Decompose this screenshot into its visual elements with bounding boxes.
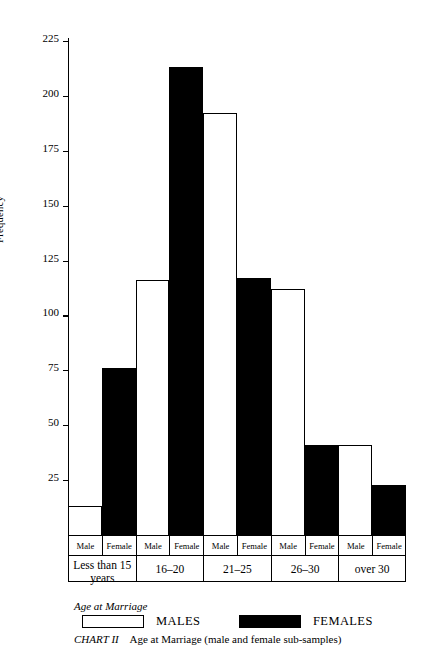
bar-female-1 <box>169 67 203 535</box>
y-tick-mark <box>63 315 69 316</box>
y-tick-label: 75 <box>48 362 59 373</box>
y-axis-title: Frequency <box>0 196 5 243</box>
legend-label-males: MALES <box>156 614 200 629</box>
y-tick-label: 225 <box>43 33 60 44</box>
x-axis-title: Age at Marriage <box>74 600 147 612</box>
group-label-4: over 30 <box>338 556 406 582</box>
legend-swatch-males <box>82 615 144 628</box>
group-label-line1: Less than 15 <box>69 559 136 572</box>
chart-caption: CHART II Age at Marriage (male and femal… <box>74 633 341 645</box>
sub-label-male-4: Male <box>338 536 372 556</box>
y-tick-mark <box>63 96 69 97</box>
y-tick-label: 200 <box>43 88 60 99</box>
sub-label-male-3: Male <box>271 536 305 556</box>
legend-swatch-females <box>239 615 301 628</box>
bar-male-1 <box>136 280 170 535</box>
chart-caption-number: CHART II <box>74 633 119 645</box>
chart-caption-text: Age at Marriage (male and female sub-sam… <box>129 633 341 645</box>
sub-label-female-3: Female <box>305 536 339 556</box>
bar-female-2 <box>237 278 271 535</box>
y-tick-label: 125 <box>43 253 60 264</box>
group-label-2: 21–25 <box>203 556 271 582</box>
y-tick-mark <box>63 425 69 426</box>
sub-label-male-1: Male <box>136 536 170 556</box>
y-tick-label: 150 <box>43 198 60 209</box>
chart-page: 255075100125150175200225 Frequency MaleF… <box>0 0 433 646</box>
bar-male-3 <box>271 289 305 535</box>
y-tick-label: 25 <box>48 472 59 483</box>
group-label-3: 26–30 <box>271 556 339 582</box>
y-tick-mark <box>63 480 69 481</box>
sub-label-female-2: Female <box>237 536 271 556</box>
y-tick-mark <box>63 370 69 371</box>
sub-label-female-4: Female <box>372 536 406 556</box>
sub-label-female-0: Female <box>102 536 136 556</box>
y-tick-label: 100 <box>43 307 60 318</box>
group-label-0: Less than 15years <box>68 556 136 582</box>
chart-legend: MALES FEMALES <box>0 614 433 632</box>
group-label-line2: years <box>69 572 136 585</box>
y-tick-mark <box>63 261 69 262</box>
y-axis-line <box>68 38 69 536</box>
y-tick-mark <box>63 41 69 42</box>
bar-female-3 <box>305 445 339 535</box>
y-tick-label: 50 <box>48 417 59 428</box>
legend-label-females: FEMALES <box>313 614 373 629</box>
group-label-1: 16–20 <box>136 556 204 582</box>
sub-label-female-1: Female <box>169 536 203 556</box>
bar-male-2 <box>203 113 237 535</box>
y-tick-label: 175 <box>43 143 60 154</box>
bar-male-0 <box>68 506 102 535</box>
bar-female-4 <box>372 485 406 535</box>
sub-label-male-0: Male <box>68 536 102 556</box>
y-tick-mark <box>63 151 69 152</box>
bar-male-4 <box>338 445 372 535</box>
bar-female-0 <box>102 368 136 535</box>
sub-label-male-2: Male <box>203 536 237 556</box>
y-tick-mark <box>63 206 69 207</box>
